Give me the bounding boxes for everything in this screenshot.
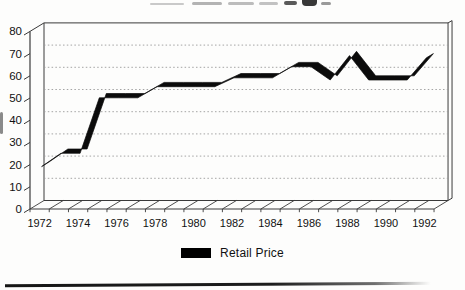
gridlines	[44, 45, 448, 178]
y-tick-label: 80	[9, 25, 22, 37]
x-tick-label: 1984	[258, 217, 282, 229]
y-tick-label: 0	[16, 203, 22, 215]
x-tick-label: 1976	[104, 217, 128, 229]
x-axis: 1972197419761978198019821984198619881990…	[27, 217, 436, 229]
legend-swatch-retail-price	[181, 248, 211, 258]
scanned-chart-page: 0102030405060708019721974197619781980198…	[0, 0, 465, 290]
chart-legend: Retail Price	[0, 246, 465, 260]
y-tick-label: 50	[9, 92, 22, 104]
retail-price-3d-line-chart: 0102030405060708019721974197619781980198…	[0, 0, 465, 242]
scan-edge-artifact	[0, 112, 3, 134]
x-tick-label: 1992	[412, 217, 436, 229]
y-tick-label: 30	[9, 136, 22, 148]
legend-label: Retail Price	[220, 246, 284, 260]
floor-hatch	[30, 201, 448, 213]
y-tick-label: 20	[9, 159, 22, 171]
x-tick-label: 1980	[181, 217, 205, 229]
y-tick-label: 10	[9, 181, 22, 193]
page-divider-line	[5, 282, 435, 287]
x-tick-label: 1978	[143, 217, 167, 229]
y-axis: 01020304050607080	[9, 25, 30, 215]
x-tick-label: 1972	[27, 217, 51, 229]
x-tick-label: 1974	[66, 217, 90, 229]
y-tick-label: 40	[9, 114, 22, 126]
x-tick-label: 1986	[297, 217, 321, 229]
x-tick-label: 1982	[220, 217, 244, 229]
x-tick-label: 1988	[335, 217, 359, 229]
y-tick-label: 70	[9, 48, 22, 60]
retail-price-series-ribbon	[42, 51, 434, 166]
x-tick-label: 1990	[374, 217, 398, 229]
y-tick-label: 60	[9, 70, 22, 82]
